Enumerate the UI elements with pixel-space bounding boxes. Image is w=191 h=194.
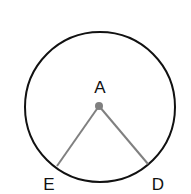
label-d: D <box>152 175 164 194</box>
label-a: A <box>94 78 106 97</box>
radius-ad <box>99 106 148 164</box>
center-point-a <box>95 102 103 110</box>
radius-ae <box>57 106 99 166</box>
label-e: E <box>43 175 54 194</box>
circle-diagram: A E D <box>0 0 191 194</box>
